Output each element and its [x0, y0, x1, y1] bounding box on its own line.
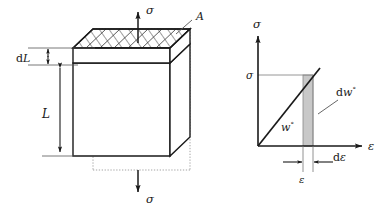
figure-svg: σ σ A dL: [0, 0, 386, 209]
dL-label: dL: [16, 52, 30, 65]
sigma-tick-label: σ: [246, 69, 254, 81]
strain-energy-increment-label: dw°: [336, 86, 356, 99]
strain-tick-label: ε: [299, 174, 304, 185]
figure-container: σ σ A dL: [0, 0, 386, 209]
area-label: A: [195, 10, 204, 23]
strain-increment-label: dε: [333, 151, 346, 164]
L-label: L: [41, 107, 50, 121]
stress-label-top: σ: [146, 3, 155, 17]
stress-label-bottom: σ: [146, 192, 155, 206]
strain-dimension-arrows: [283, 146, 333, 172]
dw-leader-line: [318, 100, 338, 114]
strain-energy-density-label: w°: [281, 121, 294, 134]
dw-strip: [303, 75, 313, 146]
y-axis-label: σ: [253, 17, 262, 31]
x-axis-label: ε: [368, 139, 374, 153]
stress-strain-energy-plot: σ ε σ w° dw° ε dε: [246, 17, 374, 185]
stress-element-cube: σ σ A dL: [16, 3, 204, 206]
